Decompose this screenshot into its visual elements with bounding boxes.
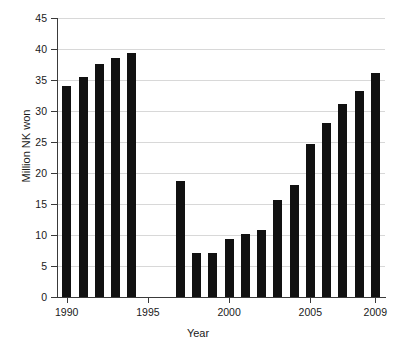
grid-line [57,49,385,50]
x-tick-label: 2009 [355,306,395,318]
y-tick-mark [51,173,57,174]
grid-line [57,204,385,205]
x-tick-mark [310,297,311,303]
grid-line [57,111,385,112]
grid-line [57,142,385,143]
bar [127,53,136,297]
bar [208,253,217,297]
plot-area [57,18,385,297]
bar [111,58,120,297]
y-tick-label-wrap: 40 [21,44,47,54]
y-tick-mark [51,266,57,267]
x-tick-mark [67,297,68,303]
bar [176,181,185,297]
bar [290,185,299,297]
bar [62,86,71,297]
bar [95,64,104,297]
y-axis-line [57,18,58,298]
bar [371,73,380,297]
x-tick-label: 2005 [290,306,330,318]
bar-chart: 051015202530354045 19901995200020052009 … [0,0,396,354]
grid-line [57,266,385,267]
bar [257,230,266,297]
y-tick-mark [51,235,57,236]
y-tick-label-wrap: 10 [21,230,47,240]
bar [79,77,88,297]
x-tick-label: 1990 [47,306,87,318]
y-tick-label: 40 [25,44,47,54]
y-tick-label-wrap: 45 [21,13,47,23]
grid-line [57,18,385,19]
y-tick-label: 5 [25,261,47,271]
bar [306,144,315,297]
bar [241,234,250,297]
x-tick-mark [148,297,149,303]
grid-line [57,173,385,174]
x-tick-mark [375,297,376,303]
x-tick-label: 1995 [128,306,168,318]
y-tick-mark [51,204,57,205]
y-tick-label: 10 [25,230,47,240]
bar [338,104,347,297]
y-tick-label-wrap: 5 [21,261,47,271]
x-tick-label: 2000 [209,306,249,318]
bar [225,239,234,297]
grid-line [57,80,385,81]
x-axis-title: Year [0,327,396,339]
x-axis-line [57,297,386,298]
y-tick-mark [51,80,57,81]
y-tick-label: 0 [25,292,47,302]
y-tick-label-wrap: 0 [21,292,47,302]
bar [322,123,331,297]
bar [273,200,282,297]
y-axis-title: Million NK won [20,76,32,216]
y-tick-label: 45 [25,13,47,23]
y-tick-mark [51,18,57,19]
y-tick-mark [51,111,57,112]
y-tick-mark [51,297,57,298]
y-tick-mark [51,142,57,143]
bar [355,91,364,297]
bar [192,253,201,297]
y-tick-mark [51,49,57,50]
grid-line [57,235,385,236]
x-tick-mark [229,297,230,303]
